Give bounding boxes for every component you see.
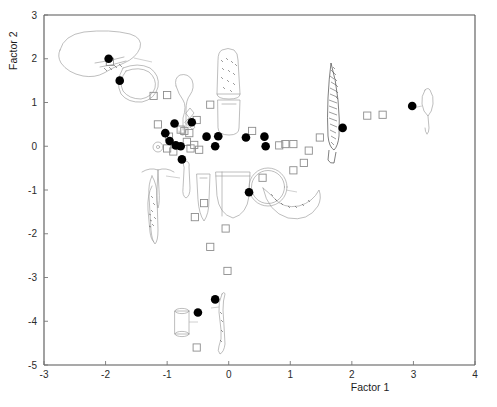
y-tick-label: 3: [31, 10, 37, 21]
y-tick-label: -3: [28, 272, 37, 283]
data-point-open: [164, 91, 171, 98]
data-point-open: [154, 121, 161, 128]
data-point-open: [222, 225, 229, 232]
x-tick-label: 3: [411, 369, 417, 380]
data-point-filled: [176, 142, 185, 151]
data-point-open: [379, 111, 386, 118]
data-point-filled: [211, 295, 220, 304]
data-point-open: [316, 134, 323, 141]
data-point-filled: [261, 142, 270, 151]
data-point-filled: [170, 119, 179, 128]
y-axis-ticks: -5-4-3-2-10123: [28, 10, 48, 371]
data-point-filled: [194, 308, 203, 317]
y-tick-label: -2: [28, 228, 37, 239]
data-point-filled: [115, 76, 124, 85]
data-point-filled: [161, 129, 170, 138]
data-point-open: [200, 200, 207, 207]
y-axis-title: Factor 2: [7, 31, 19, 70]
y-tick-label: -5: [28, 360, 37, 371]
artifact-long-pin-profile: [412, 89, 433, 135]
data-point-open: [305, 147, 312, 154]
x-tick-label: 0: [226, 369, 232, 380]
data-point-filled: [242, 133, 251, 142]
data-point-filled: [187, 118, 196, 127]
artifact-large-bowl-rim-sherd: [59, 31, 152, 77]
plot-frame: [44, 15, 475, 365]
y-tick-label: 2: [31, 53, 37, 64]
x-tick-label: 1: [288, 369, 294, 380]
y-tick-label: -4: [28, 316, 37, 327]
artifact-stippled-jar-body: [217, 49, 240, 100]
data-point-filled: [178, 155, 187, 164]
data-point-open: [364, 112, 371, 119]
data-point-open: [196, 146, 203, 153]
data-point-filled: [211, 142, 220, 151]
artifact-deep-bowl-profile: [216, 172, 250, 218]
data-point-filled: [245, 188, 254, 197]
data-point-open: [207, 101, 214, 108]
figure-container: -3-2-101234 -5-4-3-2-10123: [0, 0, 497, 407]
artifact-tall-beaker-profile: [197, 174, 210, 221]
x-tick-label: 4: [472, 369, 478, 380]
artifact-jar-base-profile: [218, 100, 240, 135]
artifact-spindle-whorl: [153, 142, 163, 152]
data-point-filled: [202, 132, 211, 141]
scatter-plot-svg: -3-2-101234 -5-4-3-2-10123: [0, 0, 497, 407]
open-square-markers: [106, 58, 386, 351]
x-tick-label: -2: [101, 369, 110, 380]
data-point-open: [249, 127, 256, 134]
x-axis-ticks: -3-2-101234: [40, 361, 479, 380]
data-point-filled: [260, 132, 269, 141]
data-point-filled: [408, 102, 417, 111]
data-point-open: [290, 167, 297, 174]
artifact-dark-spearhead-blade: [328, 63, 340, 163]
data-point-open: [207, 243, 214, 250]
y-tick-label: 1: [31, 97, 37, 108]
data-point-open: [300, 159, 307, 166]
artifact-notched-handle-fragment: [148, 186, 154, 242]
data-point-filled: [104, 54, 113, 63]
data-point-open: [193, 344, 200, 351]
data-point-open: [186, 130, 193, 137]
x-tick-label: -1: [163, 369, 172, 380]
y-tick-label: 0: [31, 141, 37, 152]
x-tick-label: -3: [40, 369, 49, 380]
data-point-open: [191, 214, 198, 221]
data-point-filled: [338, 124, 347, 133]
y-tick-label: -1: [28, 185, 37, 196]
x-tick-label: 2: [349, 369, 355, 380]
data-point-open: [290, 140, 297, 147]
data-point-filled: [214, 132, 223, 141]
artifact-pestle-profile: [183, 161, 190, 198]
x-axis-title: Factor 1: [351, 381, 390, 393]
artifact-ring-vessel-profile: [118, 65, 158, 102]
data-point-open: [259, 174, 266, 181]
data-point-open: [224, 267, 231, 274]
